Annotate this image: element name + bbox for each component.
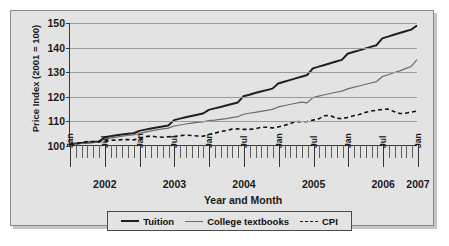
- x-tick-mark: [76, 145, 77, 158]
- x-year-label: 2003: [163, 178, 186, 190]
- x-tick-mark: [290, 145, 291, 158]
- x-year-label: 2002: [93, 178, 116, 190]
- x-tick-mark: [128, 145, 129, 158]
- legend-item-tuition: Tuition: [121, 216, 174, 227]
- x-tick-mark: [221, 145, 222, 158]
- x-tick-mark: [145, 145, 146, 158]
- x-tick-mark: [418, 145, 419, 167]
- x-tick-mark: [244, 145, 245, 167]
- x-tick-mark: [122, 145, 123, 158]
- y-tick-label: 110: [48, 116, 70, 127]
- x-tick-mark: [319, 145, 320, 158]
- x-tick-mark: [151, 145, 152, 158]
- y-tick-label: 150: [47, 18, 70, 29]
- x-tick-mark: [395, 145, 396, 158]
- legend-swatch-dashed-icon: [300, 218, 318, 224]
- x-tick-mark: [372, 145, 373, 158]
- x-tick-mark: [337, 145, 338, 158]
- x-tick-mark: [325, 145, 326, 158]
- legend-item-college-textbooks: College textbooks: [185, 216, 289, 227]
- y-tick-label: 120: [47, 92, 70, 103]
- x-tick-mark: [209, 145, 210, 167]
- x-tick-mark: [157, 145, 158, 158]
- x-tick-mark: [360, 145, 361, 158]
- x-tick-mark: [192, 145, 193, 158]
- x-month-label: Jan: [205, 133, 214, 148]
- x-month-label: Jan: [275, 133, 284, 148]
- x-tick-mark: [198, 145, 199, 158]
- chart-legend: Tuition College textbooks CPI: [107, 211, 352, 231]
- x-month-label: Jul: [101, 136, 110, 148]
- x-tick-mark: [383, 145, 384, 167]
- x-tick-mark: [389, 145, 390, 158]
- x-tick-mark: [105, 145, 106, 167]
- x-axis-title: Year and Month: [69, 194, 417, 206]
- x-year-label: 2005: [302, 178, 325, 190]
- x-tick-mark: [302, 145, 303, 158]
- x-month-label: Jan: [414, 133, 423, 148]
- x-month-label: Jul: [170, 136, 179, 148]
- x-month-label: Jul: [240, 136, 249, 148]
- x-tick-mark: [82, 145, 83, 158]
- x-tick-mark: [406, 145, 407, 158]
- y-axis-title: Price Index (2001 = 100): [30, 9, 41, 149]
- x-tick-mark: [174, 145, 175, 167]
- x-month-label: Jan: [66, 133, 75, 148]
- x-tick-mark: [279, 145, 280, 167]
- x-tick-mark: [186, 145, 187, 158]
- x-tick-mark: [180, 145, 181, 158]
- series-lines: [70, 23, 417, 145]
- x-tick-mark: [87, 145, 88, 158]
- x-tick-mark: [296, 145, 297, 158]
- x-tick-mark: [267, 145, 268, 158]
- x-tick-mark: [261, 145, 262, 158]
- x-tick-mark: [250, 145, 251, 158]
- x-tick-mark: [227, 145, 228, 158]
- chart-figure: Price Index (2001 = 100) 100110120130140…: [10, 10, 434, 226]
- grid-line: [70, 48, 417, 49]
- x-year-label: 2006: [372, 178, 395, 190]
- legend-item-cpi: CPI: [300, 216, 338, 227]
- x-tick-mark: [163, 145, 164, 158]
- legend-label: CPI: [322, 216, 338, 227]
- x-tick-mark: [140, 145, 141, 167]
- x-tick-mark: [215, 145, 216, 158]
- grid-line: [70, 23, 417, 24]
- x-month-label: Jan: [136, 133, 145, 148]
- x-tick-mark: [285, 145, 286, 158]
- x-month-label: Jul: [310, 136, 319, 148]
- grid-line: [70, 121, 417, 122]
- x-year-label: 2007: [406, 178, 429, 190]
- x-tick-mark: [354, 145, 355, 158]
- grid-line: [70, 72, 417, 73]
- x-tick-mark: [70, 145, 71, 167]
- legend-swatch-line-icon: [185, 221, 203, 222]
- x-tick-mark: [111, 145, 112, 158]
- x-tick-mark: [314, 145, 315, 167]
- x-tick-mark: [348, 145, 349, 167]
- x-tick-mark: [93, 145, 94, 158]
- x-year-label: 2004: [232, 178, 255, 190]
- x-month-label: Jan: [344, 133, 353, 148]
- x-tick-mark: [256, 145, 257, 158]
- legend-label: College textbooks: [207, 216, 289, 227]
- grid-line: [70, 97, 417, 98]
- x-tick-mark: [232, 145, 233, 158]
- x-tick-mark: [116, 145, 117, 158]
- plot-area: 100110120130140150JanJulJanJulJanJulJanJ…: [69, 23, 417, 146]
- legend-label: Tuition: [143, 216, 174, 227]
- x-month-label: Jul: [379, 136, 388, 148]
- y-tick-label: 130: [47, 67, 70, 78]
- x-tick-mark: [401, 145, 402, 158]
- y-tick-label: 140: [47, 42, 70, 53]
- x-tick-mark: [331, 145, 332, 158]
- x-tick-mark: [366, 145, 367, 158]
- legend-swatch-line-icon: [121, 220, 139, 222]
